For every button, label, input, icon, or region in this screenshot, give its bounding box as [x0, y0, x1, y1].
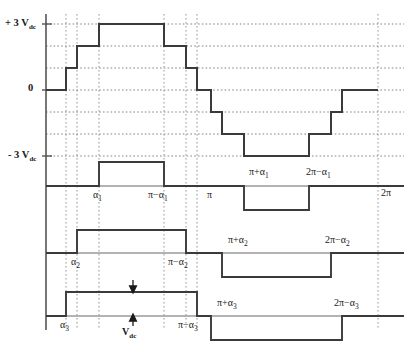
angle-label-alpha1: α1 [93, 190, 102, 203]
y-axis-label-minus-3vdc: - 3 Vdc [8, 150, 36, 163]
angle-label-alpha2: α2 [71, 257, 80, 270]
vdc-amplitude-label: Vdc [122, 327, 136, 340]
angle-label-pi-minus-alpha2: π−α2 [168, 257, 188, 270]
angle-label-pi-plus-alpha2: π+α2 [228, 235, 248, 248]
vertical-gridlines [66, 14, 378, 330]
angle-label-pi-minus-alpha3: π−α3 [178, 320, 198, 333]
angle-label-2pi-minus-alpha2: 2π−α2 [325, 235, 350, 248]
y-axis-label-plus-3vdc: + 3 Vdc [5, 18, 36, 31]
angle-label-2pi-minus-alpha1: 2π−α1 [306, 167, 331, 180]
vdc-amplitude-arrow [130, 280, 137, 326]
angle-label-pi-minus-alpha1: π−α1 [148, 190, 168, 203]
waveform-figure: + 3 Vdc 0 - 3 Vdc α1 π−α1 π 2π π+α1 2π−α… [0, 0, 413, 351]
x-axis-tick-pi: π [207, 190, 212, 200]
angle-label-pi-plus-alpha3: π+α3 [217, 298, 237, 311]
angle-label-alpha3: α3 [60, 320, 69, 333]
angle-label-pi-plus-alpha1: π+α1 [249, 167, 269, 180]
x-axis-tick-2pi: 2π [381, 188, 391, 198]
y-axis-label-zero: 0 [28, 83, 33, 94]
angle-label-2pi-minus-alpha3: 2π−α3 [334, 298, 359, 311]
